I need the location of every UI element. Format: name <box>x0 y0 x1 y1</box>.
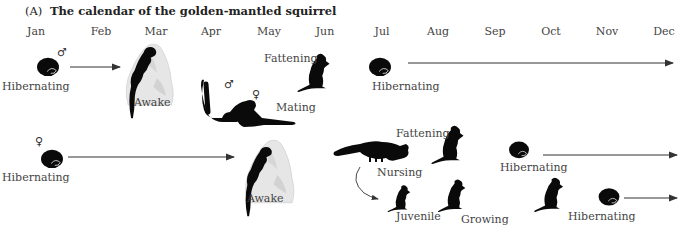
label-awake-female: Awake <box>247 192 284 205</box>
label-hibernating-male: Hibernating <box>2 80 70 93</box>
label-growing: Growing <box>461 213 509 226</box>
label-fattening-female: Fattening <box>396 127 450 140</box>
arrow-nursing-to-juvenile <box>356 167 378 199</box>
male-symbol: ♂ <box>57 46 67 59</box>
label-juvenile: Juvenile <box>396 210 441 223</box>
hibernating-male-end-icon <box>369 58 391 76</box>
label-hibernating-juvenile: Hibernating <box>568 210 636 223</box>
fattening-juvenile-icon <box>534 178 563 212</box>
label-hibernating-male-end: Hibernating <box>372 80 440 93</box>
hibernating-male-icon <box>37 58 59 76</box>
hibernating-female-icon <box>41 150 63 168</box>
diagram-graphics <box>0 0 695 236</box>
label-mating: Mating <box>276 101 316 114</box>
label-fattening-male: Fattening <box>264 52 318 65</box>
label-hibernating-female-end: Hibernating <box>500 161 568 174</box>
label-nursing: Nursing <box>377 166 422 179</box>
mating-female-symbol: ♀ <box>252 88 260 101</box>
hibernating-female-end-icon <box>509 142 529 159</box>
mating-male-symbol: ♂ <box>224 78 234 91</box>
growing-squirrel-icon <box>438 180 465 212</box>
label-awake-male: Awake <box>134 96 171 109</box>
nursing-squirrel-icon <box>334 141 409 162</box>
female-symbol: ♀ <box>35 135 43 148</box>
juvenile-squirrel-icon <box>388 185 411 212</box>
hibernating-juvenile-icon <box>599 188 620 205</box>
label-hibernating-female: Hibernating <box>2 171 70 184</box>
